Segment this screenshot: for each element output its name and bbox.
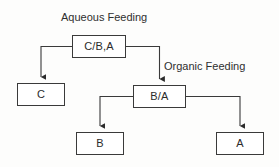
flowchart-diagram: Aqueous Feeding Organic Feeding C/B,A C … — [0, 0, 279, 167]
node-b: B — [76, 132, 124, 155]
edge-ba-to-a — [186, 97, 240, 127]
aqueous-feeding-label: Aqueous Feeding — [61, 11, 147, 23]
organic-feeding-label: Organic Feeding — [164, 60, 245, 72]
node-ba: B/A — [133, 85, 186, 108]
node-c: C — [17, 83, 65, 106]
node-root-feed: C/B,A — [72, 35, 126, 58]
edge-root-to-ba — [126, 47, 160, 80]
edge-ba-to-b — [100, 97, 133, 127]
edge-root-to-c — [41, 47, 72, 78]
node-a: A — [216, 132, 264, 155]
